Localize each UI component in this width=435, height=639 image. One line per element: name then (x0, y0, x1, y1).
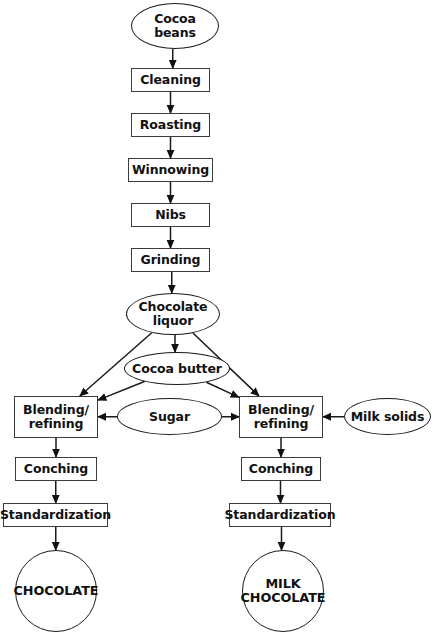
node-label-sugar: Sugar (147, 410, 192, 424)
node-cleaning: Cleaning (131, 68, 210, 92)
node-label-standardization-milk: Standardization (222, 508, 337, 522)
flowchart-canvas: Cocoa beansCleaningRoastingWinnowingNibs… (0, 0, 435, 639)
node-grinding: Grinding (131, 248, 210, 272)
node-label-cocoa-butter: Cocoa butter (130, 362, 224, 376)
node-label-standardization-dark: Standardization (0, 508, 113, 522)
node-chocolate-liquor: Chocolate liquor (126, 293, 220, 335)
node-label-winnowing: Winnowing (130, 163, 211, 177)
node-label-chocolate-liquor: Chocolate liquor (137, 300, 210, 328)
node-label-conching-milk: Conching (247, 462, 315, 476)
node-roasting: Roasting (131, 113, 210, 137)
node-conching-milk: Conching (241, 457, 321, 481)
node-standardization-milk: Standardization (229, 503, 331, 527)
node-standardization-dark: Standardization (3, 503, 108, 527)
node-label-blending-dark: Blending/ refining (21, 403, 91, 431)
node-label-nibs: Nibs (153, 208, 188, 222)
node-sugar: Sugar (117, 398, 222, 435)
node-label-cocoa-beans: Cocoa beans (152, 12, 198, 40)
node-cocoa-butter: Cocoa butter (124, 352, 230, 385)
node-blending-dark: Blending/ refining (14, 396, 98, 438)
node-label-blending-milk: Blending/ refining (246, 403, 316, 431)
node-label-chocolate: CHOCOLATE (12, 584, 101, 598)
node-winnowing: Winnowing (128, 158, 213, 182)
node-label-grinding: Grinding (139, 253, 203, 267)
node-label-roasting: Roasting (138, 118, 203, 132)
edge-e-butter-blend-dark (98, 382, 144, 401)
edge-e-butter-blend-milk (206, 382, 239, 397)
node-label-milk-solids: Milk solids (349, 410, 427, 424)
node-chocolate: CHOCOLATE (15, 550, 97, 632)
node-blending-milk: Blending/ refining (239, 396, 323, 438)
node-conching-dark: Conching (15, 457, 97, 481)
node-cocoa-beans: Cocoa beans (131, 3, 219, 49)
node-nibs: Nibs (131, 203, 210, 227)
node-label-milk-chocolate: MILK CHOCOLATE (239, 577, 328, 606)
node-milk-solids: Milk solids (344, 398, 431, 435)
node-milk-chocolate: MILK CHOCOLATE (242, 550, 324, 632)
node-label-cleaning: Cleaning (138, 73, 203, 87)
node-label-conching-dark: Conching (22, 462, 90, 476)
